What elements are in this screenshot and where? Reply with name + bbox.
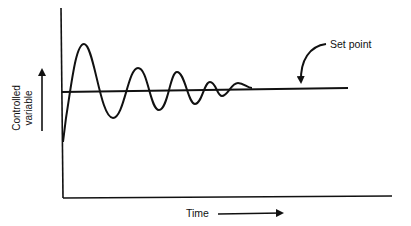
svg-text:variable: variable [23,90,34,125]
x-axis [63,196,392,198]
y-axis-label: Controlled variable [11,85,34,131]
x-axis-label: Time [186,207,209,219]
curved-arrow-icon [301,44,326,82]
y-axis [61,8,63,198]
control-response-diagram: Set point Controlled variable Time [0,0,411,226]
svg-text:Controlled: Controlled [11,85,22,131]
response-curve [63,44,252,142]
arrow-right-icon [218,213,282,214]
set-point-label: Set point [330,38,372,50]
